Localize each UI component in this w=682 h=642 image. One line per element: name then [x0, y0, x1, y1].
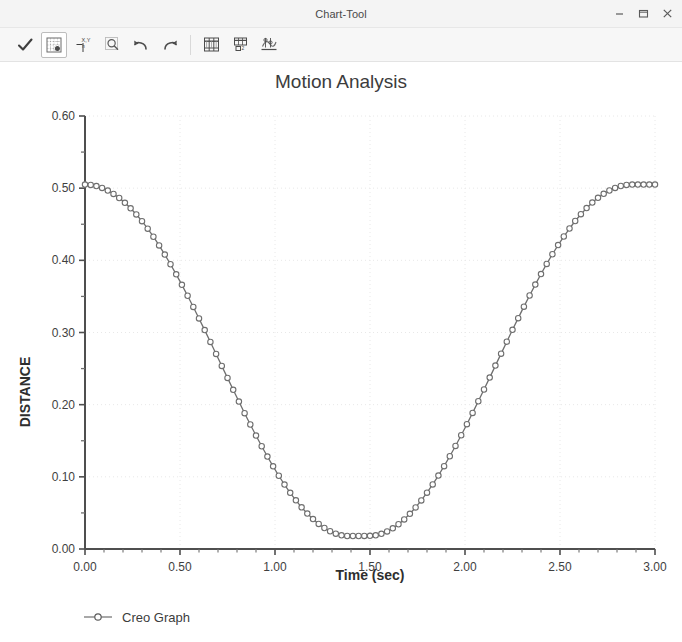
- series-marker[interactable]: [213, 351, 218, 356]
- series-marker[interactable]: [510, 327, 515, 332]
- series-marker[interactable]: [630, 182, 635, 187]
- series-marker[interactable]: [174, 272, 179, 277]
- chart-canvas[interactable]: 0.000.100.200.300.400.500.600.000.501.00…: [0, 62, 682, 642]
- series-marker[interactable]: [139, 219, 144, 224]
- series-marker[interactable]: [293, 498, 298, 503]
- series-marker[interactable]: [430, 482, 435, 487]
- series-marker[interactable]: [219, 363, 224, 368]
- chart-legend[interactable]: Creo Graph: [84, 610, 190, 625]
- series-marker[interactable]: [498, 351, 503, 356]
- series-marker[interactable]: [384, 529, 389, 534]
- series-marker[interactable]: [396, 522, 401, 527]
- series-marker[interactable]: [424, 490, 429, 495]
- series-marker[interactable]: [476, 399, 481, 404]
- series-marker[interactable]: [179, 282, 184, 287]
- series-marker[interactable]: [413, 505, 418, 510]
- series-marker[interactable]: [379, 531, 384, 536]
- series-marker[interactable]: [555, 242, 560, 247]
- series-marker[interactable]: [122, 200, 127, 205]
- series-marker[interactable]: [310, 516, 315, 521]
- series-marker[interactable]: [305, 511, 310, 516]
- series-marker[interactable]: [447, 454, 452, 459]
- series-marker[interactable]: [350, 533, 355, 538]
- series-marker[interactable]: [470, 410, 475, 415]
- maximize-button[interactable]: [637, 7, 650, 20]
- undo-button[interactable]: [128, 32, 154, 58]
- series-marker[interactable]: [265, 454, 270, 459]
- series-marker[interactable]: [299, 505, 304, 510]
- series-marker[interactable]: [208, 339, 213, 344]
- export-data-button[interactable]: 2: [227, 32, 253, 58]
- series-marker[interactable]: [441, 463, 446, 468]
- series-marker[interactable]: [567, 226, 572, 231]
- minimize-button[interactable]: [613, 7, 626, 20]
- series-marker[interactable]: [202, 327, 207, 332]
- series-marker[interactable]: [288, 490, 293, 495]
- series-marker[interactable]: [168, 262, 173, 267]
- series-marker[interactable]: [236, 399, 241, 404]
- series-marker[interactable]: [94, 183, 99, 188]
- xy-axis-button[interactable]: X,Y n: [70, 32, 96, 58]
- series-marker[interactable]: [362, 533, 367, 538]
- series-marker[interactable]: [191, 304, 196, 309]
- series-marker[interactable]: [253, 433, 258, 438]
- series-marker[interactable]: [276, 473, 281, 478]
- series-marker[interactable]: [282, 482, 287, 487]
- table-view-button[interactable]: [198, 32, 224, 58]
- series-marker[interactable]: [327, 529, 332, 534]
- series-marker[interactable]: [561, 234, 566, 239]
- series-marker[interactable]: [436, 473, 441, 478]
- series-marker[interactable]: [641, 182, 646, 187]
- series-marker[interactable]: [578, 212, 583, 217]
- series-marker[interactable]: [99, 185, 104, 190]
- series-marker[interactable]: [516, 315, 521, 320]
- series-marker[interactable]: [156, 243, 161, 248]
- series-marker[interactable]: [527, 293, 532, 298]
- series-marker[interactable]: [521, 304, 526, 309]
- series-marker[interactable]: [544, 261, 549, 266]
- series-marker[interactable]: [595, 195, 600, 200]
- series-marker[interactable]: [145, 226, 150, 231]
- series-marker[interactable]: [573, 218, 578, 223]
- series-marker[interactable]: [356, 533, 361, 538]
- series-marker[interactable]: [459, 433, 464, 438]
- series-marker[interactable]: [242, 410, 247, 415]
- series-marker[interactable]: [538, 271, 543, 276]
- series-marker[interactable]: [373, 533, 378, 538]
- series-marker[interactable]: [601, 191, 606, 196]
- series-marker[interactable]: [407, 511, 412, 516]
- series-marker[interactable]: [162, 252, 167, 257]
- series-marker[interactable]: [105, 188, 110, 193]
- series-marker[interactable]: [339, 533, 344, 538]
- series-marker[interactable]: [151, 234, 156, 239]
- series-marker[interactable]: [493, 363, 498, 368]
- series-marker[interactable]: [550, 252, 555, 257]
- series-marker[interactable]: [453, 443, 458, 448]
- series-marker[interactable]: [185, 293, 190, 298]
- series-marker[interactable]: [390, 526, 395, 531]
- series-marker[interactable]: [345, 533, 350, 538]
- series-marker[interactable]: [612, 185, 617, 190]
- series-marker[interactable]: [533, 282, 538, 287]
- series-marker[interactable]: [117, 195, 122, 200]
- series-marker[interactable]: [196, 316, 201, 321]
- series-marker[interactable]: [464, 422, 469, 427]
- close-button[interactable]: [661, 7, 674, 20]
- series-marker[interactable]: [367, 533, 372, 538]
- series-marker[interactable]: [259, 444, 264, 449]
- series-marker[interactable]: [402, 517, 407, 522]
- series-marker[interactable]: [270, 464, 275, 469]
- series-marker[interactable]: [607, 188, 612, 193]
- series-marker[interactable]: [231, 387, 236, 392]
- series-marker[interactable]: [225, 375, 230, 380]
- series-marker[interactable]: [647, 182, 652, 187]
- series-marker[interactable]: [624, 182, 629, 187]
- series-marker[interactable]: [419, 498, 424, 503]
- series-marker[interactable]: [635, 182, 640, 187]
- graph-settings-button[interactable]: [256, 32, 282, 58]
- series-marker[interactable]: [316, 521, 321, 526]
- grid-settings-button[interactable]: [41, 32, 67, 58]
- series-marker[interactable]: [618, 183, 623, 188]
- series-marker[interactable]: [82, 182, 87, 187]
- series-marker[interactable]: [481, 387, 486, 392]
